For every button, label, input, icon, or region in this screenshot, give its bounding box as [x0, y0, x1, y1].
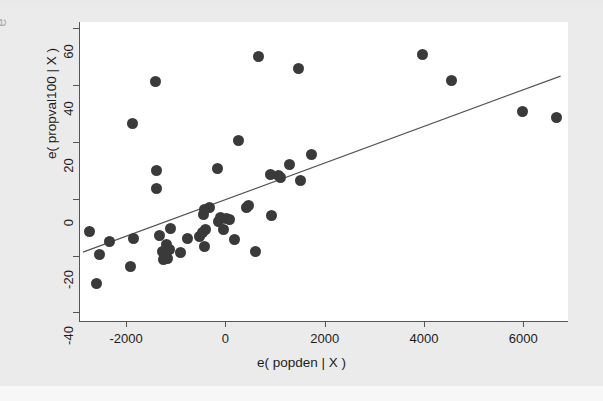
- scatter-point: [253, 51, 264, 62]
- scatter-point: [275, 172, 286, 183]
- plot-area: [79, 22, 568, 321]
- y-tick-label: 20: [61, 140, 76, 190]
- scatter-point: [127, 118, 138, 129]
- scatter-point: [446, 75, 457, 86]
- y-axis-line: [79, 22, 80, 321]
- scatter-point: [128, 233, 139, 244]
- scatter-point: [250, 246, 261, 257]
- y-axis-title: e( propval100 | X ): [44, 48, 59, 159]
- x-tick-label: 0: [222, 331, 229, 346]
- page-tone-band-top: [0, 0, 603, 4]
- scatter-point: [551, 112, 562, 123]
- scatter-point: [151, 165, 162, 176]
- figure-page: e -40-200204060 -20000200040006000 e( pr…: [0, 0, 603, 401]
- x-axis-title: e( popden | X ): [0, 355, 603, 370]
- y-tick-label: -20: [61, 254, 76, 304]
- x-tick-mark: [523, 321, 524, 327]
- x-tick-label: 2000: [310, 331, 339, 346]
- scatter-point: [204, 202, 215, 213]
- scatter-point: [295, 175, 306, 186]
- x-axis-line: [79, 321, 568, 322]
- y-tick-label: -40: [61, 311, 76, 361]
- y-tick-label: 40: [61, 83, 76, 133]
- x-tick-mark: [424, 321, 425, 327]
- scatter-point: [94, 249, 105, 260]
- x-tick-label: -2000: [110, 331, 143, 346]
- x-tick-mark: [325, 321, 326, 327]
- stray-margin-glyph: e: [0, 18, 9, 26]
- scatter-point: [233, 135, 244, 146]
- page-tone-band-bottom: [0, 386, 603, 401]
- x-tick-label: 4000: [410, 331, 439, 346]
- y-tick-label: 0: [61, 197, 76, 247]
- x-tick-mark: [225, 321, 226, 327]
- y-tick-label: 60: [61, 26, 76, 76]
- x-tick-mark: [126, 321, 127, 327]
- scatter-point: [517, 106, 528, 117]
- x-tick-label: 6000: [509, 331, 538, 346]
- scatter-point: [104, 236, 115, 247]
- scatter-point: [84, 226, 95, 237]
